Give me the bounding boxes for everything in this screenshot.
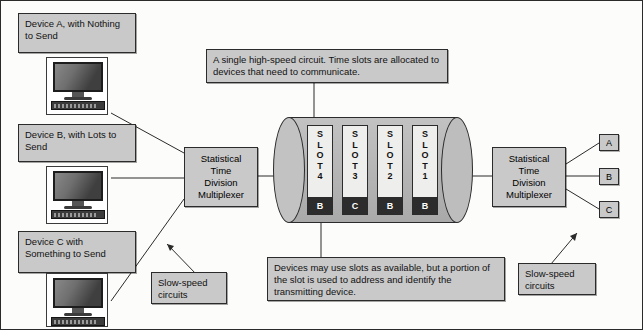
slot-1-char-0: S xyxy=(422,129,428,140)
device-c-label: Device C with Something to Send xyxy=(18,231,136,273)
keyboard-icon xyxy=(51,210,105,219)
slot-1: S L O T 1 B xyxy=(412,125,438,215)
mux-right-line-1: Statistical xyxy=(495,153,563,165)
mux-right: Statistical Time Division Multiplexer xyxy=(492,147,566,207)
slot-3-char-1: L xyxy=(352,140,358,151)
device-a-computer-icon xyxy=(46,57,108,115)
cylinder-cap-left xyxy=(273,117,305,223)
slot-3: S L O T 3 C xyxy=(342,125,368,215)
mux-left: Statistical Time Division Multiplexer xyxy=(184,147,258,207)
slot-3-char-3: T xyxy=(352,161,358,172)
device-c-computer-icon xyxy=(46,273,108,327)
keyboard-icon xyxy=(51,101,105,110)
mux-left-line-1: Statistical xyxy=(187,153,255,165)
slot-2-letters: S L O T 2 xyxy=(386,126,393,197)
slot-2-char-3: T xyxy=(387,161,393,172)
mux-left-line-4: Multiplexer xyxy=(187,189,255,201)
monitor-screen xyxy=(53,171,103,201)
slot-3-letters: S L O T 3 xyxy=(351,126,358,197)
slot-4-address: B xyxy=(308,197,332,214)
slot-4-char-4: 4 xyxy=(317,171,322,182)
slot-4-char-1: L xyxy=(317,140,323,151)
slot-1-char-3: T xyxy=(422,161,428,172)
output-box-c: C xyxy=(599,201,619,218)
output-box-b: B xyxy=(599,168,619,185)
slow-speed-right-label: Slow-speed circuits xyxy=(518,263,596,295)
device-b-computer-icon xyxy=(46,166,108,224)
slot-3-char-0: S xyxy=(352,129,358,140)
slot-3-char-2: O xyxy=(351,150,358,161)
mux-right-line-4: Multiplexer xyxy=(495,189,563,201)
slot-1-letters: S L O T 1 xyxy=(421,126,428,197)
device-a-label: Device A, with Nothing to Send xyxy=(18,13,136,53)
slot-4-char-0: S xyxy=(317,129,323,140)
slot-2-char-1: L xyxy=(387,140,393,151)
monitor-screen xyxy=(53,278,103,308)
slot-2: S L O T 2 B xyxy=(377,125,403,215)
slot-1-char-1: L xyxy=(422,140,428,151)
slot-2-char-0: S xyxy=(387,129,393,140)
slot-4-char-2: O xyxy=(316,150,323,161)
link-output-a xyxy=(566,143,599,164)
slot-3-char-4: 3 xyxy=(352,171,357,182)
slot-3-address: C xyxy=(343,197,367,214)
slot-1-char-2: O xyxy=(421,150,428,161)
high-speed-circuit-cylinder: S L O T 4 B S L O T 3 C S L O T xyxy=(273,117,473,223)
device-b-label: Device B, with Lots to Send xyxy=(18,124,136,162)
slot-1-char-4: 1 xyxy=(422,171,427,182)
slot-4-letters: S L O T 4 xyxy=(316,126,323,197)
slow-speed-left-label: Slow-speed circuits xyxy=(151,272,227,304)
slot-4-char-3: T xyxy=(317,161,323,172)
output-box-a: A xyxy=(599,134,619,151)
cylinder-cap-right xyxy=(441,117,473,223)
slot-2-address: B xyxy=(378,197,402,214)
mux-left-line-2: Time xyxy=(187,165,255,177)
link-output-c xyxy=(566,189,599,209)
mux-right-line-2: Time xyxy=(495,165,563,177)
mux-right-line-3: Division xyxy=(495,177,563,189)
slot-1-address: B xyxy=(413,197,437,214)
slot-2-char-2: O xyxy=(386,150,393,161)
diagram-canvas: Device A, with Nothing to Send Device B,… xyxy=(0,0,643,330)
slot-4: S L O T 4 B xyxy=(307,125,333,215)
monitor-screen xyxy=(53,62,103,92)
callout-bottom: Devices may use slots as available, but … xyxy=(267,257,505,301)
keyboard-icon xyxy=(51,317,105,326)
mux-left-line-3: Division xyxy=(187,177,255,189)
callout-top: A single high-speed circuit. Time slots … xyxy=(206,49,448,83)
slot-2-char-4: 2 xyxy=(387,171,392,182)
